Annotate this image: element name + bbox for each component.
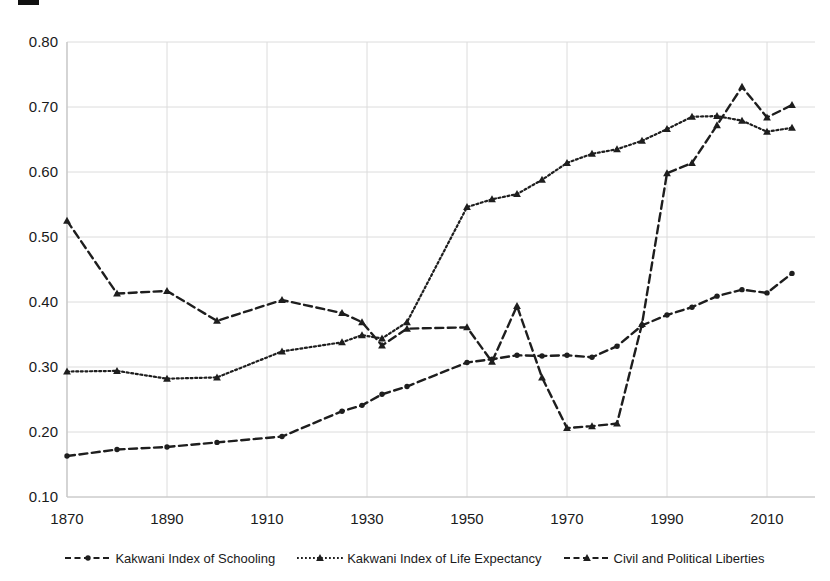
circle-marker-icon <box>86 555 91 560</box>
circle-marker <box>689 305 694 310</box>
circle-marker <box>339 409 344 414</box>
figure: 0.800.700.600.500.400.300.200.1018701890… <box>0 0 830 581</box>
y-tick-label: 0.70 <box>29 98 58 115</box>
triangle-marker <box>338 338 346 345</box>
triangle-marker <box>163 287 171 294</box>
circle-marker <box>164 444 169 449</box>
triangle-marker <box>788 101 796 108</box>
legend-item-life-expectancy: Kakwani Index of Life Expectancy <box>297 551 541 566</box>
y-tick-label: 0.30 <box>29 358 58 375</box>
dotted-triangle-line-icon <box>297 552 343 564</box>
x-tick-label: 1970 <box>550 510 583 527</box>
y-tick-label: 0.60 <box>29 163 58 180</box>
triangle-marker <box>513 302 521 309</box>
triangle-marker <box>63 217 71 224</box>
legend-item-civil-political-liberties: Civil and Political Liberties <box>564 551 765 566</box>
y-tick-label: 0.20 <box>29 423 58 440</box>
circle-marker <box>404 384 409 389</box>
circle-marker <box>589 355 594 360</box>
series-line-kakwani-index-of-life-expectancy <box>67 116 792 379</box>
triangle-marker <box>538 373 546 380</box>
circle-marker <box>789 271 794 276</box>
circle-marker <box>64 453 69 458</box>
circle-marker <box>279 434 284 439</box>
gridlines <box>67 42 815 497</box>
circle-marker <box>379 392 384 397</box>
y-tick-label: 0.10 <box>29 488 58 505</box>
line-chart: 0.800.700.600.500.400.300.200.1018701890… <box>0 0 830 540</box>
circle-marker <box>514 353 519 358</box>
x-tick-label: 1890 <box>150 510 183 527</box>
x-tick-label: 1930 <box>350 510 383 527</box>
legend-label-civil-political-liberties: Civil and Political Liberties <box>614 551 765 566</box>
x-tick-label: 2010 <box>750 510 783 527</box>
y-tick-label: 0.40 <box>29 293 58 310</box>
circle-marker <box>714 293 719 298</box>
circle-marker <box>764 290 769 295</box>
series-kakwani-index-of-schooling <box>64 271 794 459</box>
circle-marker <box>739 287 744 292</box>
circle-marker <box>359 403 364 408</box>
circle-marker <box>664 312 669 317</box>
circle-marker <box>114 447 119 452</box>
dashed-circle-line-icon <box>65 552 111 564</box>
chart-legend: Kakwani Index of Schooling Kakwani Index… <box>0 544 830 572</box>
series-line-kakwani-index-of-schooling <box>67 273 792 456</box>
legend-label-schooling: Kakwani Index of Schooling <box>115 551 275 566</box>
x-tick-label: 1950 <box>450 510 483 527</box>
triangle-marker <box>738 83 746 90</box>
circle-marker <box>614 344 619 349</box>
x-tick-label: 1870 <box>50 510 83 527</box>
axes <box>67 42 815 497</box>
dashed-triangle-line-icon <box>564 552 610 564</box>
legend-label-life-expectancy: Kakwani Index of Life Expectancy <box>347 551 541 566</box>
triangle-marker <box>338 309 346 316</box>
circle-marker <box>564 353 569 358</box>
legend-item-schooling: Kakwani Index of Schooling <box>65 551 275 566</box>
x-tick-label: 1990 <box>650 510 683 527</box>
y-tick-label: 0.80 <box>29 33 58 50</box>
circle-marker <box>464 360 469 365</box>
triangle-marker <box>513 190 521 197</box>
triangle-marker <box>403 318 411 325</box>
circle-marker <box>214 440 219 445</box>
circle-marker <box>539 353 544 358</box>
x-tick-label: 1910 <box>250 510 283 527</box>
series-kakwani-index-of-life-expectancy <box>63 112 796 382</box>
y-tick-label: 0.50 <box>29 228 58 245</box>
